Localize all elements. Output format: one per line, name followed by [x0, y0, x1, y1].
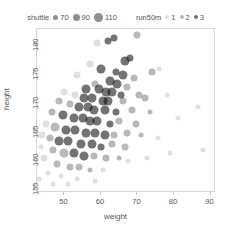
data-point [117, 156, 122, 161]
alpha-legend-title: run50m [136, 13, 161, 22]
data-point [91, 128, 100, 137]
y-axis-label: height [2, 88, 11, 110]
data-point [86, 60, 93, 67]
x-tick-mark [100, 192, 101, 195]
data-point [89, 105, 98, 114]
data-point [58, 173, 63, 178]
size-legend-entry-70[interactable]: 70 [53, 13, 68, 22]
data-point [201, 147, 206, 152]
data-point [103, 155, 110, 162]
data-point [71, 125, 80, 134]
data-point [36, 176, 41, 181]
alpha-legend-label-1: 1 [171, 13, 175, 22]
data-point [164, 93, 169, 98]
data-point [134, 31, 141, 38]
x-tick-mark [136, 192, 137, 195]
data-point [61, 89, 68, 96]
x-tick-label: 80 [169, 197, 177, 206]
data-point [90, 152, 97, 159]
size-legend-title: shuttle [27, 13, 49, 22]
data-point [168, 150, 173, 155]
y-tick-label: 180 [31, 39, 40, 52]
data-point [87, 94, 96, 103]
data-point [66, 164, 73, 171]
data-point [128, 106, 135, 113]
data-point [80, 151, 89, 160]
y-tick-label: 160 [31, 154, 40, 167]
data-point [50, 146, 57, 153]
legend-bar: shuttle 70 90 110 run50m 1 [0, 8, 231, 26]
data-point [82, 85, 91, 94]
data-point [72, 92, 79, 99]
alpha-legend-entry-2[interactable]: 2 [180, 13, 190, 22]
y-tick-label: 155 [31, 183, 40, 196]
size-legend-shuttle: shuttle 70 90 110 [27, 13, 117, 22]
size-legend-bubble-70 [53, 15, 58, 20]
data-point [38, 144, 43, 149]
data-point [112, 109, 119, 116]
data-point [141, 95, 148, 102]
data-point [43, 120, 50, 127]
y-tick-label: 165 [31, 125, 40, 138]
data-point [144, 156, 149, 161]
size-legend-entry-90[interactable]: 90 [73, 13, 90, 22]
data-point [66, 100, 73, 107]
data-point [51, 182, 56, 187]
data-point [39, 132, 46, 139]
alpha-legend-bubble-1 [165, 15, 169, 19]
x-tick-mark [63, 192, 64, 195]
data-point [100, 131, 109, 140]
data-point [74, 72, 81, 79]
data-point [66, 182, 71, 187]
data-point [149, 69, 156, 76]
alpha-legend-entry-3[interactable]: 3 [194, 13, 204, 22]
data-point [76, 164, 83, 171]
data-point [100, 105, 109, 114]
data-point [108, 141, 115, 148]
data-point [155, 136, 160, 141]
data-point [97, 143, 104, 150]
x-tick-label: 60 [96, 197, 104, 206]
alpha-legend-bubble-2 [180, 15, 184, 19]
plot-area [36, 28, 215, 192]
size-legend-label-90: 90 [82, 13, 90, 22]
data-point [48, 109, 55, 116]
data-point [107, 88, 116, 97]
data-point [116, 118, 123, 125]
data-point [139, 133, 144, 138]
alpha-legend-label-3: 3 [200, 13, 204, 22]
data-point [126, 159, 131, 164]
y-tick-label: 170 [31, 96, 40, 109]
data-point [157, 67, 162, 72]
data-point [113, 79, 122, 88]
data-point [46, 135, 53, 142]
data-point [96, 65, 105, 74]
data-point [105, 37, 112, 44]
x-axis-label: weight [0, 212, 231, 221]
alpha-legend-entry-1[interactable]: 1 [165, 13, 175, 22]
data-point [118, 71, 127, 80]
alpha-legend-bubble-3 [194, 15, 198, 19]
data-point [93, 179, 98, 184]
data-point [175, 116, 180, 121]
size-legend-entry-110[interactable]: 110 [94, 13, 117, 22]
data-point [82, 128, 91, 137]
data-point [127, 54, 134, 61]
data-point [87, 140, 96, 149]
data-point [45, 170, 50, 175]
bubble-chart-root: shuttle 70 90 110 run50m 1 [0, 0, 231, 232]
data-point [69, 148, 78, 157]
data-point [51, 122, 60, 131]
data-point [60, 148, 69, 157]
data-point [55, 97, 62, 104]
data-point [104, 96, 113, 105]
data-point [121, 143, 128, 150]
data-point [130, 74, 137, 81]
data-point [62, 125, 71, 134]
data-point [100, 167, 105, 172]
data-point [195, 104, 200, 109]
data-point [64, 137, 73, 146]
data-point [148, 110, 153, 115]
data-point [132, 120, 139, 127]
data-point [119, 97, 126, 104]
